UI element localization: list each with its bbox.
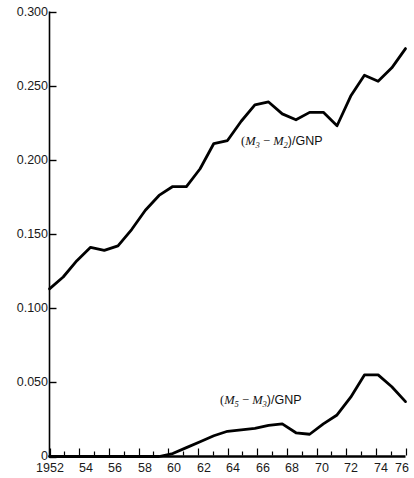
annotation-minus: − bbox=[260, 134, 273, 148]
y-tick-label: 0.100 bbox=[2, 302, 48, 315]
annotation-m-a: M bbox=[245, 134, 255, 148]
chart-background bbox=[0, 0, 414, 478]
annotation-minus: − bbox=[239, 393, 252, 407]
upper-series-annotation: (M3 − M2)/GNP bbox=[241, 135, 323, 148]
annotation-close: )/GNP bbox=[267, 393, 302, 407]
chart-plot-area bbox=[0, 0, 414, 478]
annotation-sub-a: 3 bbox=[256, 140, 260, 150]
y-tick-label: 0.300 bbox=[2, 6, 48, 19]
annotation-m-a: M bbox=[224, 393, 234, 407]
x-tick-label-76: 76 bbox=[390, 462, 414, 475]
annotation-m-b: M bbox=[273, 134, 283, 148]
y-tick-label: 0.150 bbox=[2, 228, 48, 241]
y-tick-label: 0.250 bbox=[2, 80, 48, 93]
annotation-sub-b: 2 bbox=[284, 140, 288, 150]
chart-figure: 0.300 0.250 0.200 0.150 0.100 0.050 0 19… bbox=[0, 0, 414, 478]
lower-series-annotation: (M5 − M3)/GNP bbox=[220, 394, 302, 407]
x-tick-label-1952: 1952 bbox=[31, 462, 69, 475]
y-tick-label: 0.050 bbox=[2, 376, 48, 389]
annotation-m-b: M bbox=[252, 393, 262, 407]
annotation-sub-b: 3 bbox=[263, 399, 267, 409]
y-tick-label: 0.200 bbox=[2, 154, 48, 167]
annotation-sub-a: 5 bbox=[235, 399, 239, 409]
annotation-close: )/GNP bbox=[288, 134, 323, 148]
